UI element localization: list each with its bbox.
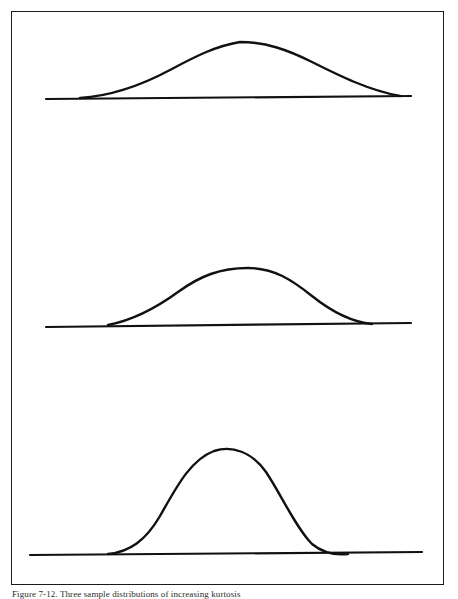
figure-border bbox=[11, 11, 444, 585]
figure-caption: Figure 7-12. Three sample distributions … bbox=[12, 589, 442, 599]
